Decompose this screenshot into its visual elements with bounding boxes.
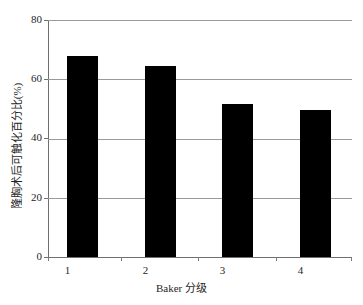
x-tick-mark-2 xyxy=(198,257,199,261)
bar-category-3 xyxy=(222,104,253,257)
y-axis-title: 隆胸术后可触化百分比(%) xyxy=(9,28,25,265)
x-tick-mark-3 xyxy=(276,257,277,261)
gridline-baseline-0 xyxy=(48,257,352,258)
bar-category-1 xyxy=(67,56,98,257)
x-tick-mark-0 xyxy=(48,257,49,261)
plot-area xyxy=(48,20,352,257)
gridline-80 xyxy=(48,20,352,21)
bar-chart-figure: 隆胸术后可触化百分比(%) 80 60 40 20 0 1 2 3 xyxy=(0,0,363,305)
x-tick-mark-4 xyxy=(351,257,352,261)
bar-category-4 xyxy=(300,110,331,257)
bar-category-2 xyxy=(145,66,176,257)
x-tick-mark-1 xyxy=(121,257,122,261)
y-tick-label-80: 80 xyxy=(0,14,42,25)
y-tick-label-0: 0 xyxy=(0,251,42,262)
x-axis-title: Baker 分级 xyxy=(0,282,363,295)
y-tick-label-20: 20 xyxy=(0,192,42,203)
x-tick-label-4: 4 xyxy=(285,264,316,276)
x-tick-label-2: 2 xyxy=(130,264,161,276)
y-tick-label-40: 40 xyxy=(0,132,42,143)
x-tick-label-1: 1 xyxy=(52,264,83,276)
y-tick-label-60: 60 xyxy=(0,73,42,84)
x-tick-label-3: 3 xyxy=(207,264,238,276)
